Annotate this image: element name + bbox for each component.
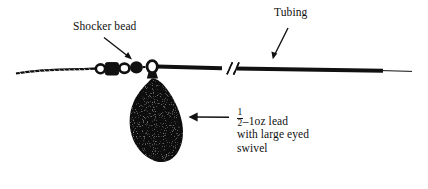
label-lead-with-swivel: 12–1oz lead with large eyed swivel [237, 108, 357, 155]
arrow-to-shocker-bead [104, 38, 132, 60]
arrow-to-tubing [271, 28, 288, 59]
ring-bead [119, 64, 129, 73]
fishing-rig-diagram: Shocker bead Tubing 12–1oz lead with lar… [0, 0, 428, 189]
braided-line [16, 68, 95, 75]
eyed-swivel-ring [147, 61, 158, 79]
round-shocker-bead [130, 61, 143, 73]
tubing [157, 67, 383, 71]
label-tubing: Tubing [274, 6, 307, 20]
thin-tail-line [382, 71, 412, 72]
diagram-canvas [0, 0, 428, 189]
label-shocker-bead: Shocker bead [73, 20, 136, 34]
lead-line-2: with large eyed [237, 128, 309, 140]
pear-lead-weight [130, 78, 183, 162]
arrow-to-lead [189, 113, 230, 122]
square-shocker-bead [105, 63, 118, 75]
lead-line-3: swivel [237, 142, 268, 154]
lead-line-1: –1oz lead [243, 115, 288, 127]
line-break-marks [222, 62, 239, 74]
swivel-ring [95, 64, 106, 73]
